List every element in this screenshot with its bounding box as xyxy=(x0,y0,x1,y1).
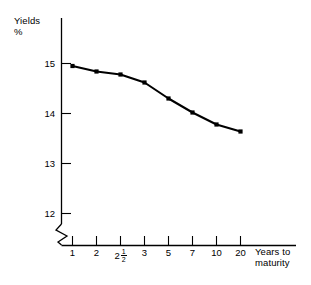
yield-curve-line xyxy=(73,66,241,132)
yield-curve-chart: Yields % Years to maturity 15141312 1221… xyxy=(0,0,311,285)
data-point-marker xyxy=(190,110,194,114)
y-axis-title-line1: Yields xyxy=(14,15,40,26)
x-axis-title: Years to maturity xyxy=(255,246,290,268)
fraction-denominator: 2 xyxy=(121,255,127,264)
x-tick-label-value: 3 xyxy=(142,247,147,258)
y-tick-label: 12 xyxy=(31,209,55,219)
y-axis-ticks xyxy=(62,64,72,214)
fraction-numerator: 1 xyxy=(121,248,127,256)
data-point-marker xyxy=(142,80,146,84)
y-tick-label: 14 xyxy=(31,109,55,119)
data-point-marker xyxy=(166,96,170,100)
x-tick-label-value: 10 xyxy=(211,247,222,258)
data-point-marker xyxy=(238,129,242,133)
data-point-marker xyxy=(214,122,218,126)
data-point-marker xyxy=(70,64,74,68)
axis-break-zigzag xyxy=(56,224,67,245)
x-tick-label-value: 1 xyxy=(70,247,75,258)
x-tick-label-value: 2 xyxy=(94,247,99,258)
x-tick-label-value: 2 xyxy=(114,250,119,261)
y-axis-title: Yields % xyxy=(14,15,40,37)
yield-curve-markers xyxy=(70,64,242,134)
x-axis-title-line1: Years to xyxy=(255,246,290,257)
x-tick-label: 20 xyxy=(226,248,256,258)
x-tick-label-value: 5 xyxy=(166,247,171,258)
y-tick-label: 15 xyxy=(31,59,55,69)
data-point-marker xyxy=(118,72,122,76)
y-tick-label: 13 xyxy=(31,159,55,169)
data-point-marker xyxy=(94,69,98,73)
x-tick-label-value: 20 xyxy=(235,247,246,258)
x-axis-title-line2: maturity xyxy=(255,257,290,268)
y-axis-title-line2: % xyxy=(14,26,40,37)
x-tick-label-value: 7 xyxy=(190,247,195,258)
x-axis-ticks xyxy=(73,236,241,246)
chart-plot-area xyxy=(0,0,311,285)
fraction-half: 12 xyxy=(121,248,127,264)
